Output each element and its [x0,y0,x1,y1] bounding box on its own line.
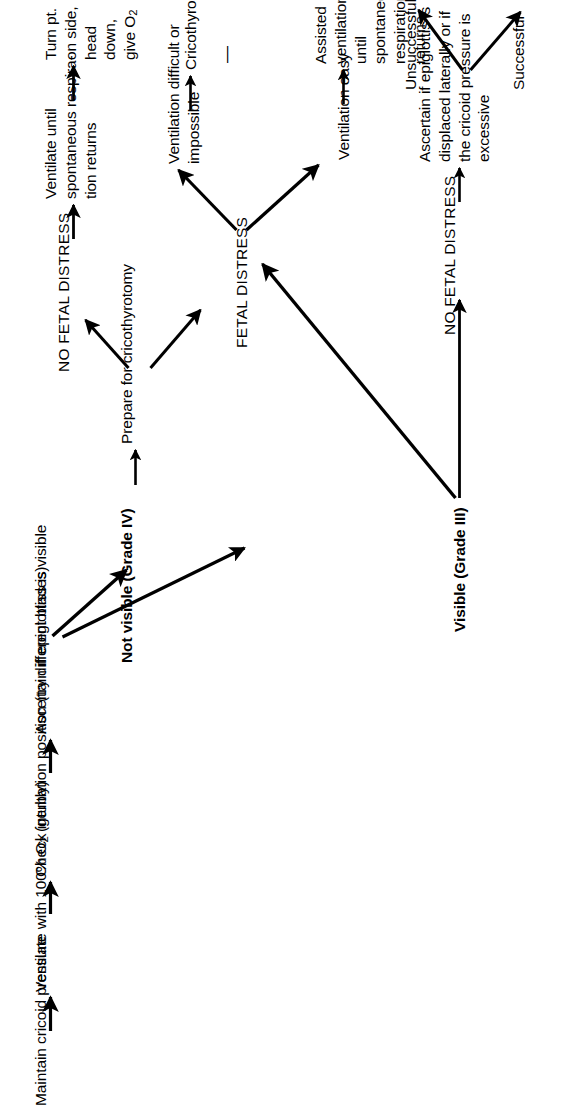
node-ascertain-epiglottis: Ascertain if epiglottiss is visible [30,525,50,734]
node-cricothyrotomy-trailing-dash: — [215,46,237,63]
node-unsuccessful: Unsuccessful [400,0,420,90]
node-prepare-cricothyrotomy: Prepare for cricothyrotomy [116,264,136,444]
flowchart-page: Maintain cricoid pressure Ventilate with… [0,0,577,1110]
node-fetal-distress: FETAL DISTRESS [231,217,251,348]
edge-fetal-to-easy [246,165,318,230]
node-turn-pt: Turn pt. on side, head down, give O2 [40,0,139,60]
node-successful: Successful [508,16,528,90]
node-ventilation-easy: Ventilation easy [333,53,353,160]
edge-fetal-to-difficult [178,170,236,230]
node-no-fetal-distress-top: NO FETAL DISTRESS [53,213,73,372]
node-not-visible-grade-iv: Not visible (Grade IV) [116,508,136,663]
edge-ascertain-to-visible [62,548,244,637]
edge-prepare-to-fetal [150,310,200,368]
edge-ascertain-to-notvisible [52,570,126,636]
rotated-diagram-layer: Maintain cricoid pressure Ventilate with… [0,0,577,1110]
node-ventilate-until: Ventilate until spontaneous respira- tio… [40,55,99,199]
node-turn-pt-text: Turn pt. on side, head down, give O [41,7,137,61]
node-no-fetal-distress-bottom: NO FETAL DISTRESS [439,176,459,335]
edge-visible-to-fetal [262,264,455,498]
node-cricothyrotomy: Cricothyrotomy [180,0,200,70]
node-ascertain-displaced: Ascertain if epiglottis is displaced lat… [414,7,493,162]
o2-subscript-2: 2 [127,10,139,16]
node-visible-grade-iii: Visible (Grade III) [449,508,469,632]
